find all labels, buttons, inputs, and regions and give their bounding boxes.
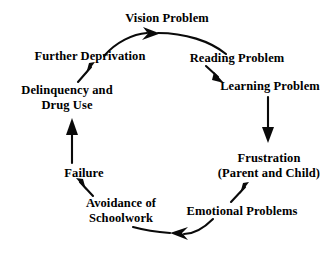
arrow-delinquency-to-deprivation — [78, 62, 95, 82]
node-failure: Failure — [60, 166, 108, 180]
node-avoidance-line1: Avoidance of — [78, 196, 164, 211]
node-reading-problem: Reading Problem — [183, 51, 291, 65]
node-frustration-line2: (Parent and Child) — [205, 166, 333, 181]
node-avoidance-line2: Schoolwork — [78, 211, 164, 226]
node-avoidance-of-schoolwork: Avoidance of Schoolwork — [78, 196, 164, 225]
cycle-diagram: Vision Problem Reading Problem Learning … — [0, 0, 335, 258]
arrow-emotional-to-frustration — [231, 182, 249, 202]
node-delinquency-and-drug-use: Delinquency and Drug Use — [13, 83, 121, 112]
node-further-deprivation: Further Deprivation — [31, 49, 149, 63]
arrow-layer — [0, 0, 335, 258]
node-delinquency-line2: Drug Use — [13, 98, 121, 113]
node-frustration: Frustration (Parent and Child) — [205, 151, 333, 180]
arrow-failure-to-delinquency — [66, 118, 78, 163]
arrow-learning-to-frustration — [262, 97, 274, 143]
node-delinquency-line1: Delinquency and — [13, 83, 121, 98]
arrow-avoidance-to-failure — [76, 178, 93, 196]
node-vision-problem: Vision Problem — [117, 11, 217, 25]
node-frustration-line1: Frustration — [205, 151, 333, 166]
node-emotional-problems: Emotional Problems — [180, 204, 304, 218]
node-learning-problem: Learning Problem — [215, 79, 325, 93]
